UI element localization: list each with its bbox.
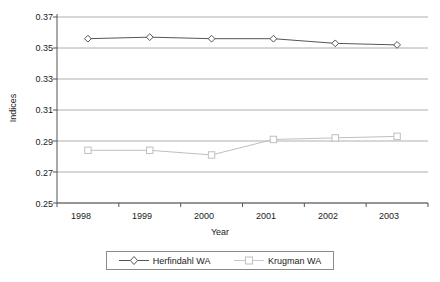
series-1 [85,34,401,49]
data-point-marker [332,40,339,47]
legend-label-krugman: Krugman WA [268,256,321,266]
data-point-marker [208,35,215,42]
x-tick-marks [57,203,428,207]
data-point-marker [85,35,92,42]
gridlines [57,17,428,203]
square-marker-icon [234,255,264,266]
series-line [88,136,397,155]
chart-legend: Herfindahl WA Krugman WA [106,251,334,270]
y-tick-marks [53,17,57,203]
data-point-marker [147,147,153,153]
data-point-marker [270,136,276,142]
data-point-marker [394,42,401,49]
series-2 [85,133,401,158]
data-point-marker [85,147,91,153]
legend-item-herfindahl: Herfindahl WA [119,255,211,266]
diamond-marker-icon [119,255,149,266]
data-point-marker [394,133,400,139]
data-series-layer [85,34,401,158]
chart-container: Indices Year 0.37 0.35 0.33 0.31 0.29 0.… [0,0,440,282]
series-line [88,37,397,45]
legend-item-krugman: Krugman WA [234,255,321,266]
data-point-marker [208,152,214,158]
data-point-marker [146,34,153,41]
data-point-marker [270,35,277,42]
axis-lines [57,14,428,203]
plot-area [0,0,440,282]
legend-label-herfindahl: Herfindahl WA [153,256,211,266]
data-point-marker [332,135,338,141]
